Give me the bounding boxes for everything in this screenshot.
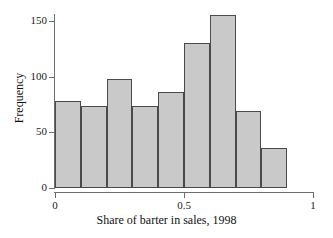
histogram-bar xyxy=(81,106,107,188)
histogram-bar xyxy=(107,79,133,188)
histogram-bars xyxy=(0,0,333,238)
histogram-bar xyxy=(236,111,262,188)
histogram-bar xyxy=(132,106,158,188)
y-axis-title: Frequency xyxy=(13,38,25,158)
histogram-bar xyxy=(158,92,184,188)
histogram-bar xyxy=(55,101,81,188)
histogram-bar xyxy=(261,148,287,188)
histogram-bar xyxy=(184,43,210,188)
histogram-plot: 050100150 00.51 Share of barter in sales… xyxy=(0,0,333,238)
chart-page: 050100150 00.51 Share of barter in sales… xyxy=(0,0,333,238)
histogram-bar xyxy=(210,15,236,188)
x-axis-title: Share of barter in sales, 1998 xyxy=(0,214,333,226)
